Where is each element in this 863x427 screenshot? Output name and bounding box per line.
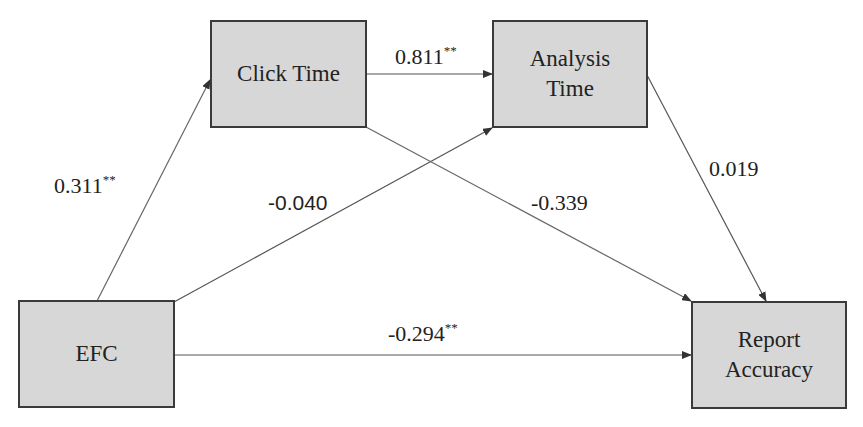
node-click-time: Click Time	[210, 20, 367, 128]
coef-analysis-time-report-accuracy: 0.019	[709, 156, 759, 182]
node-label: Report Accuracy	[725, 325, 813, 385]
edge-efc-analysis-time	[174, 128, 492, 302]
coef-efc-analysis-time: -0.040	[268, 191, 328, 215]
coef-efc-click-time: 0.311**	[54, 172, 116, 199]
node-label: Click Time	[237, 59, 340, 89]
node-efc: EFC	[18, 300, 175, 408]
node-label: EFC	[75, 339, 117, 369]
coef-click-time-analysis-time: 0.811**	[395, 43, 457, 70]
node-label: Analysis Time	[530, 44, 611, 104]
node-analysis-time: Analysis Time	[492, 20, 648, 128]
node-report-accuracy: Report Accuracy	[691, 301, 847, 409]
edge-analysis-time-report-accuracy	[647, 75, 766, 301]
coef-click-time-report-accuracy: -0.339	[531, 190, 588, 216]
coef-efc-report-accuracy: -0.294**	[388, 320, 458, 347]
edge-click-time-report-accuracy	[366, 127, 691, 301]
